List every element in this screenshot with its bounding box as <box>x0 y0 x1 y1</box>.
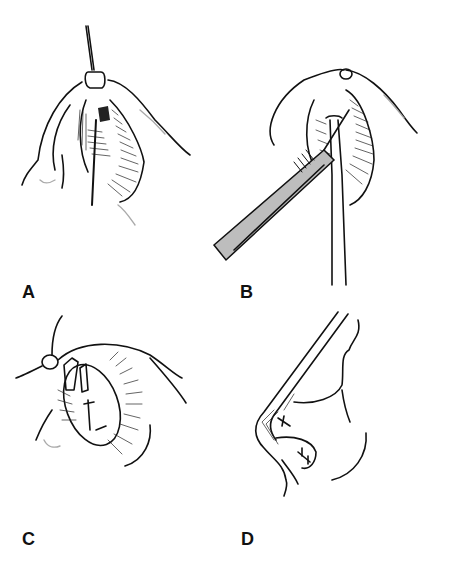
hatch-shading <box>316 100 373 184</box>
panel-label-a: A <box>22 283 35 301</box>
panel-d: D <box>234 300 468 561</box>
panel-c-illustration <box>0 300 234 540</box>
panel-d-illustration <box>234 300 468 540</box>
panel-b: B <box>234 0 468 280</box>
panel-a-illustration <box>0 0 234 280</box>
panel-b-illustration <box>234 0 468 280</box>
panel-c: C <box>0 300 234 561</box>
panel-label-c: C <box>22 530 35 548</box>
panel-label-d: D <box>241 530 254 548</box>
hatch-shading <box>58 352 142 454</box>
panel-label-b: B <box>240 283 253 301</box>
panel-a: A <box>0 0 234 280</box>
hatch-shading <box>78 110 138 196</box>
